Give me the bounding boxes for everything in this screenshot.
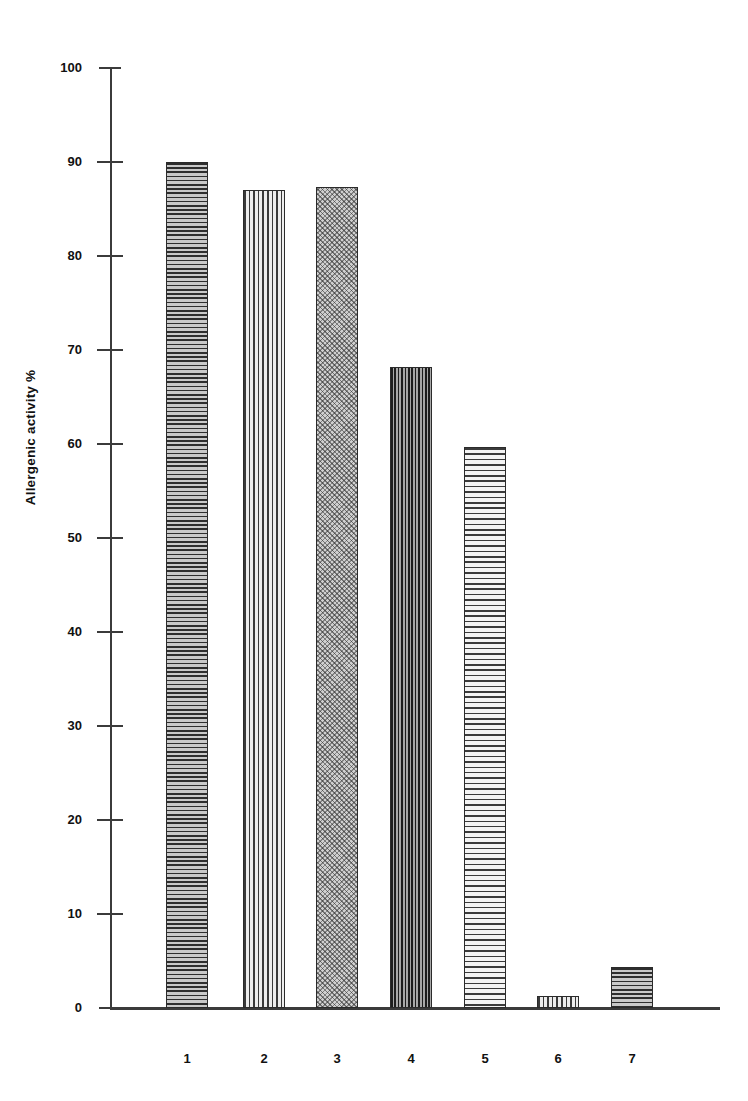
y-axis-tick	[97, 631, 123, 633]
y-axis-tick-label: 80	[30, 249, 82, 262]
x-axis-label-7: 7	[602, 1052, 662, 1065]
y-axis-tick	[97, 255, 123, 257]
x-axis-label-4: 4	[381, 1052, 441, 1065]
bar-1	[166, 162, 208, 1008]
y-axis-tick	[97, 725, 123, 727]
y-axis-tick	[97, 443, 123, 445]
y-axis-tick-label: 70	[30, 343, 82, 356]
y-axis-tick-label: 50	[30, 531, 82, 544]
bar-chart: Allergenic activity % 100908070605040302…	[0, 0, 748, 1101]
bar-2	[243, 190, 285, 1008]
y-axis-tick-label: 100	[30, 61, 82, 74]
y-axis-tick-label: 40	[30, 625, 82, 638]
x-axis-label-6: 6	[528, 1052, 588, 1065]
bar-7	[611, 967, 653, 1008]
x-axis-label-3: 3	[307, 1052, 367, 1065]
y-axis-tick	[97, 537, 123, 539]
y-axis-tick	[97, 349, 123, 351]
bar-3	[316, 187, 358, 1008]
y-axis-tick	[97, 161, 123, 163]
bar-6	[537, 996, 579, 1008]
y-axis-tick	[99, 1007, 121, 1009]
bar-5	[464, 447, 506, 1008]
x-axis-label-1: 1	[157, 1052, 217, 1065]
y-axis-tick	[97, 819, 123, 821]
bar-4	[390, 367, 432, 1008]
x-axis-label-5: 5	[455, 1052, 515, 1065]
y-axis-tick	[97, 913, 123, 915]
x-axis-label-2: 2	[234, 1052, 294, 1065]
y-axis-tick-label: 0	[30, 1001, 82, 1014]
y-axis-tick-label: 90	[30, 155, 82, 168]
y-axis-tick-label: 10	[30, 907, 82, 920]
y-axis-tick-label: 60	[30, 437, 82, 450]
y-axis-tick	[99, 67, 121, 69]
plot-area: 1009080706050403020100 1234567	[0, 0, 748, 1101]
y-axis-tick-label: 30	[30, 719, 82, 732]
y-axis-tick-label: 20	[30, 813, 82, 826]
